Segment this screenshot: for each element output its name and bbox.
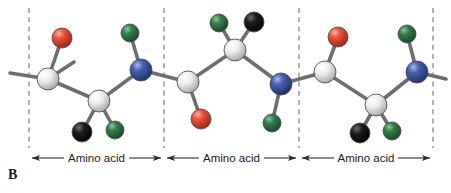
atom-nitrogen-n-1	[130, 59, 152, 81]
atom-rgroup-r-1	[72, 122, 92, 142]
atom-oxygen-o-3	[328, 27, 348, 47]
panel-label: B	[8, 168, 17, 182]
residue-label-3: Amino acid	[338, 152, 395, 164]
atom-nitrogen-n-2	[270, 73, 292, 95]
atom-hydrogen-h-n1	[121, 24, 139, 42]
atom-hydrogen-h-n3	[398, 25, 416, 43]
atom-rgroup-r-2	[244, 12, 264, 32]
atom-spheres	[37, 12, 428, 143]
atom-hydrogen-h-1	[106, 121, 124, 139]
residue-label-2: Amino acid	[203, 152, 260, 164]
atom-nitrogen-n-3	[406, 61, 428, 83]
atom-carbon-ca-1	[88, 90, 110, 112]
atom-carbon-ca-3	[365, 94, 387, 116]
residue-annotations: Amino acid Amino acid Amino acid	[32, 152, 430, 164]
residue-label-1: Amino acid	[68, 152, 125, 164]
atom-rgroup-r-3	[350, 123, 370, 143]
atom-carbon-c-3	[314, 61, 336, 83]
atom-carbon-c-2	[177, 71, 199, 93]
residue-span-3: Amino acid	[302, 152, 430, 164]
residue-span-2: Amino acid	[167, 152, 296, 164]
atom-carbon-ca-2	[224, 39, 246, 61]
atom-carbon-c-term-left	[37, 68, 59, 90]
atom-hydrogen-h-3	[383, 122, 401, 140]
residue-span-1: Amino acid	[32, 152, 161, 164]
figure-canvas: Amino acid Amino acid Amino acid B	[0, 0, 451, 193]
polypeptide-diagram: Amino acid Amino acid Amino acid	[0, 0, 451, 193]
atom-hydrogen-h-2	[210, 14, 228, 32]
atom-oxygen-o-2	[191, 109, 211, 129]
bond-network	[10, 22, 446, 133]
atom-hydrogen-h-n2	[263, 114, 281, 132]
atom-oxygen-o-1	[52, 28, 72, 48]
